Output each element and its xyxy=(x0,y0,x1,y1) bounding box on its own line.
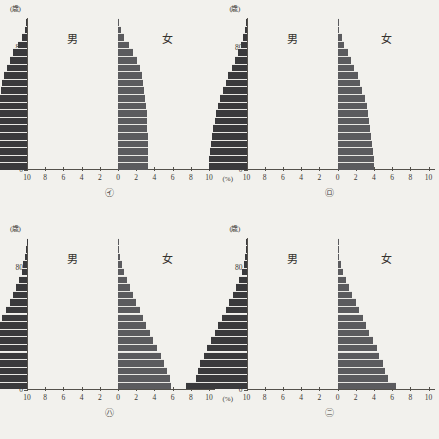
bar-female xyxy=(118,155,148,163)
bar-female xyxy=(338,64,354,72)
bar-female xyxy=(118,268,124,276)
bar-female xyxy=(338,253,340,261)
male-label: 男 xyxy=(67,250,78,266)
x-tick-label: 10 xyxy=(243,174,251,182)
bar-female xyxy=(118,56,137,64)
bar-male xyxy=(211,336,246,344)
bar-female xyxy=(118,359,164,367)
bar-male xyxy=(26,245,27,253)
bar-female xyxy=(118,367,167,375)
footer-note xyxy=(0,429,439,439)
bar-female xyxy=(338,147,373,155)
bar-female xyxy=(338,79,361,87)
bar-female xyxy=(338,102,367,110)
bar-female xyxy=(338,306,360,314)
bar-female xyxy=(118,352,161,360)
bar-male xyxy=(19,276,27,284)
bar-male xyxy=(196,374,247,382)
bar-female xyxy=(338,352,380,360)
bar-male xyxy=(22,33,27,41)
bar-female xyxy=(338,329,370,337)
bar-female xyxy=(118,253,120,261)
bar-female xyxy=(338,132,372,140)
bar-male xyxy=(186,382,246,390)
male-label: 男 xyxy=(287,30,298,46)
bar-female xyxy=(118,64,140,72)
bar-male xyxy=(0,94,27,102)
bar-female xyxy=(338,94,365,102)
bar-female xyxy=(338,238,339,246)
bar-female xyxy=(338,155,374,163)
x-tick-label: 8 xyxy=(189,174,193,182)
x-tick xyxy=(429,167,430,171)
bar-male xyxy=(0,109,27,117)
bar-male xyxy=(212,132,247,140)
panel-1: (歳)(%)0204060801086420246810男女㋺ xyxy=(220,0,439,220)
bar-female xyxy=(118,245,119,253)
x-tick-label: 2 xyxy=(134,174,138,182)
bar-male xyxy=(0,352,27,360)
x-tick-label: 10 xyxy=(425,394,433,402)
bar-female xyxy=(338,276,346,284)
bar-male xyxy=(222,314,247,322)
bar-male xyxy=(13,48,27,56)
bar-female xyxy=(338,367,385,375)
x-tick-label: 10 xyxy=(425,174,433,182)
panel-2: (歳)(%)0204060801086420246810男女㋩ xyxy=(0,220,220,439)
plot-area-㋥: (歳)(%)0204060801086420246810男女 xyxy=(247,238,429,390)
bar-male xyxy=(245,253,247,261)
y-axis-unit: (歳) xyxy=(10,223,20,233)
x-tick-label: 8 xyxy=(408,394,412,402)
x-tick-label: 6 xyxy=(171,174,175,182)
bar-female xyxy=(118,71,142,79)
x-tick-label: 2 xyxy=(354,394,358,402)
bar-female xyxy=(118,94,145,102)
bars-group xyxy=(247,18,429,170)
bar-male xyxy=(210,147,246,155)
x-tick-label: 8 xyxy=(43,174,47,182)
bar-male xyxy=(10,56,27,64)
bar-female xyxy=(338,245,339,253)
bar-male xyxy=(239,276,247,284)
bar-female xyxy=(338,382,396,390)
bar-male xyxy=(27,238,28,246)
bar-female xyxy=(338,359,384,367)
x-tick-label: 10 xyxy=(23,174,31,182)
bar-female xyxy=(118,306,140,314)
x-tick-label: 4 xyxy=(372,174,376,182)
x-tick-label: 4 xyxy=(299,394,303,402)
panel-identifier: ㋺ xyxy=(220,186,439,199)
bar-male xyxy=(213,124,247,132)
x-tick-label: 4 xyxy=(153,174,157,182)
bar-male xyxy=(228,71,246,79)
bar-female xyxy=(338,48,348,56)
bar-male xyxy=(0,147,27,155)
bar-female xyxy=(338,71,358,79)
bar-male xyxy=(4,71,27,79)
bar-female xyxy=(118,102,146,110)
female-label: 女 xyxy=(162,30,173,46)
bar-male xyxy=(232,64,247,72)
bar-male xyxy=(241,41,246,49)
bar-female xyxy=(338,117,370,125)
bar-female xyxy=(118,382,171,390)
bar-female xyxy=(118,344,157,352)
bar-female xyxy=(118,291,133,299)
x-tick-label: 0 xyxy=(116,174,120,182)
bar-male xyxy=(211,140,246,148)
x-tick-label: 2 xyxy=(317,394,321,402)
bar-female xyxy=(338,314,363,322)
bar-female xyxy=(118,260,122,268)
bar-male xyxy=(13,291,27,299)
bar-female xyxy=(118,117,147,125)
bar-female xyxy=(118,18,119,26)
panel-identifier: ㋩ xyxy=(0,406,220,419)
female-label: 女 xyxy=(162,250,173,266)
bar-male xyxy=(236,283,247,291)
bar-female xyxy=(338,140,373,148)
y-axis-unit: (歳) xyxy=(10,3,20,13)
bar-female xyxy=(118,329,150,337)
bar-female xyxy=(118,276,127,284)
bar-male xyxy=(0,329,27,337)
bar-male xyxy=(0,336,27,344)
